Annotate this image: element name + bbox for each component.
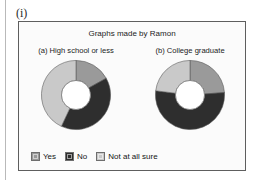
legend-item-yes: Yes: [31, 152, 56, 161]
chart-panel-b-title: (b) College graduate: [133, 46, 247, 55]
page-left-rule: [5, 0, 6, 180]
legend-item-not-at-all-sure: Not at all sure: [96, 152, 157, 161]
figure-box: Graphs made by Ramon (a) High school or …: [18, 21, 246, 171]
legend-label-not-at-all-sure: Not at all sure: [108, 152, 157, 161]
donut-chart-b: [154, 59, 226, 131]
chart-panel-a: (a) High school or less: [19, 46, 133, 142]
donut-chart-a: [40, 59, 112, 131]
item-marker: (i): [16, 7, 27, 19]
figure-title: Graphs made by Ramon: [19, 29, 245, 39]
chart-panels: (a) High school or less (b) College grad…: [19, 46, 245, 142]
donut-chart-b-svg: [154, 59, 226, 131]
legend-swatch-yes: [31, 152, 40, 161]
legend-label-no: No: [77, 152, 87, 161]
legend-swatch-not-at-all-sure: [96, 152, 105, 161]
legend-swatch-no: [65, 152, 74, 161]
donut-chart-a-svg: [40, 59, 112, 131]
chart-panel-b: (b) College graduate: [133, 46, 247, 142]
legend-label-yes: Yes: [43, 152, 56, 161]
legend-item-no: No: [65, 152, 87, 161]
chart-legend: Yes No Not at all sure: [31, 152, 158, 161]
donut-hole: [175, 80, 204, 109]
donut-hole: [61, 80, 90, 109]
chart-panel-a-title: (a) High school or less: [19, 46, 133, 55]
